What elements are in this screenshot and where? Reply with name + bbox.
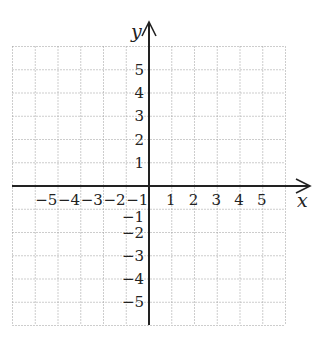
y-tick-label: 5 bbox=[134, 61, 144, 79]
x-tick-label: −2 bbox=[103, 191, 125, 209]
x-tick-label: −3 bbox=[81, 191, 103, 209]
y-tick-label: 2 bbox=[134, 131, 144, 149]
x-tick-label: −5 bbox=[35, 191, 57, 209]
y-tick-label: 1 bbox=[134, 154, 144, 172]
y-tick-label: 3 bbox=[134, 107, 144, 125]
y-tick-label: −4 bbox=[122, 270, 144, 288]
y-tick-label: −5 bbox=[122, 293, 144, 311]
x-tick-label: −4 bbox=[58, 191, 80, 209]
x-tick-label: 1 bbox=[166, 191, 176, 209]
coordinate-plane: x y −5−4−3−2−112345 54321−1−2−3−4−5 bbox=[0, 0, 327, 361]
x-tick-labels: −5−4−3−2−112345 bbox=[35, 191, 266, 209]
y-tick-label: 4 bbox=[134, 84, 144, 102]
x-tick-label: 5 bbox=[257, 191, 267, 209]
y-tick-label: −2 bbox=[122, 224, 144, 242]
x-axis-label: x bbox=[297, 189, 308, 211]
x-tick-label: 2 bbox=[189, 191, 199, 209]
y-axis-label: y bbox=[130, 20, 142, 42]
x-tick-label: 3 bbox=[211, 191, 221, 209]
y-tick-label: −3 bbox=[122, 247, 144, 265]
x-tick-label: 4 bbox=[234, 191, 244, 209]
x-tick-label: −1 bbox=[126, 191, 148, 209]
